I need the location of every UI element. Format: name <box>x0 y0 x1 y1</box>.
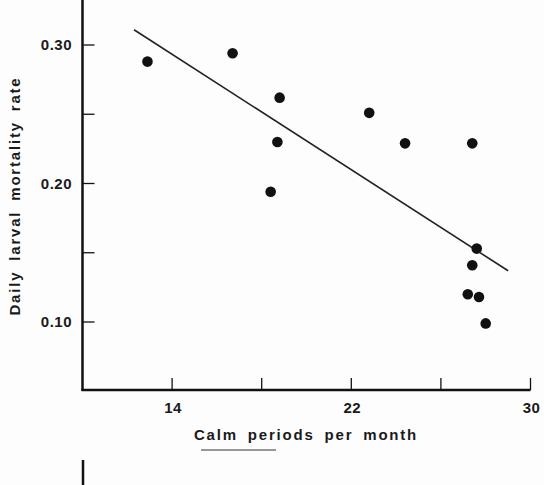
y-tick-label: 0.20 <box>41 175 72 192</box>
x-tick-labels: 142230 <box>164 399 540 416</box>
data-point <box>467 138 478 149</box>
data-point <box>272 137 283 148</box>
data-point <box>274 92 285 103</box>
x-tick-label: 22 <box>343 399 361 416</box>
data-point <box>400 138 411 149</box>
scatter-chart: 0.300.200.10 142230 Daily larval mortali… <box>0 0 544 485</box>
data-point <box>467 260 478 271</box>
data-point <box>142 56 153 67</box>
data-point <box>364 108 375 119</box>
y-axis-title: Daily larval mortality rate <box>6 76 23 315</box>
x-axis-title: Calm periods per month <box>194 426 418 443</box>
y-tick-labels: 0.300.200.10 <box>41 36 72 330</box>
data-point <box>480 318 491 329</box>
data-point <box>471 243 482 254</box>
data-point <box>462 289 473 300</box>
data-point <box>227 48 238 59</box>
regression-line <box>134 30 508 271</box>
data-point <box>265 187 276 198</box>
y-tick-label: 0.30 <box>41 36 72 53</box>
x-tick-label: 30 <box>523 399 541 416</box>
x-tick-label: 14 <box>164 399 182 416</box>
y-tick-label: 0.10 <box>41 313 72 330</box>
data-points <box>142 48 491 329</box>
data-point <box>474 292 485 303</box>
trend-line <box>134 30 508 271</box>
